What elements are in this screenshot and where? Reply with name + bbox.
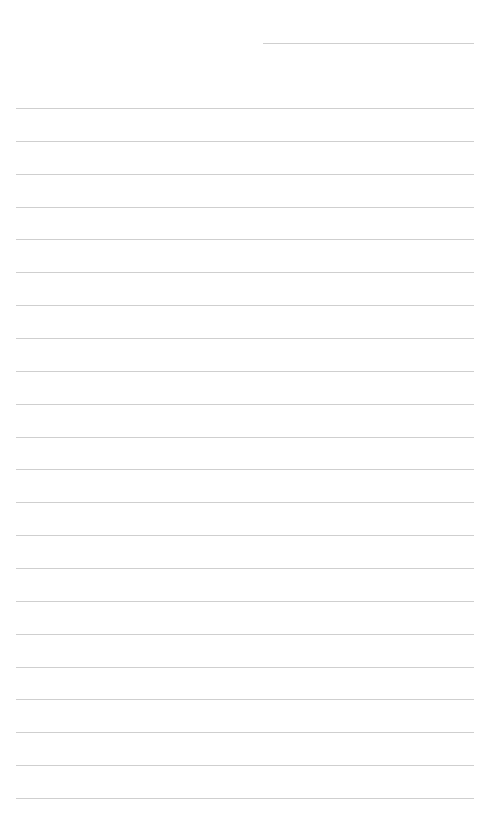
ruled-line (16, 404, 474, 405)
ruled-line (16, 601, 474, 602)
ruled-line (16, 502, 474, 503)
ruled-line (16, 798, 474, 799)
ruled-line (16, 338, 474, 339)
ruled-line (16, 568, 474, 569)
ruled-line (16, 765, 474, 766)
ruled-line (16, 174, 474, 175)
ruled-line (16, 207, 474, 208)
lined-paper-page (0, 0, 500, 818)
ruled-line (16, 141, 474, 142)
ruled-line (16, 371, 474, 372)
ruled-line (16, 305, 474, 306)
date-header-line (263, 43, 474, 44)
ruled-line (16, 634, 474, 635)
ruled-line (16, 469, 474, 470)
ruled-line (16, 699, 474, 700)
ruled-line (16, 535, 474, 536)
ruled-line (16, 108, 474, 109)
ruled-line (16, 437, 474, 438)
ruled-line (16, 272, 474, 273)
ruled-line (16, 239, 474, 240)
ruled-line (16, 667, 474, 668)
ruled-line (16, 732, 474, 733)
